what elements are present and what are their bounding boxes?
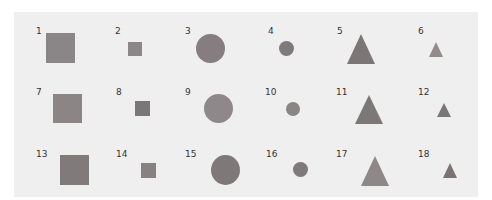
- item-label: 7: [36, 87, 42, 97]
- item-label: 5: [337, 26, 343, 36]
- square-shape-2: [128, 42, 142, 56]
- triangle-shape-6: [429, 42, 443, 57]
- item-label: 9: [185, 87, 191, 97]
- circle-shape-3: [196, 34, 225, 63]
- item-label: 1: [36, 26, 42, 36]
- item-label: 10: [265, 87, 276, 97]
- triangle-shape-12: [437, 103, 451, 117]
- circle-shape-4: [279, 41, 294, 56]
- circle-shape-15: [211, 155, 240, 185]
- item-label: 18: [418, 149, 429, 159]
- item-label: 2: [115, 26, 121, 36]
- item-label: 8: [116, 87, 122, 97]
- item-label: 16: [266, 149, 277, 159]
- square-shape-8: [135, 101, 150, 116]
- item-label: 13: [36, 149, 47, 159]
- square-shape-14: [141, 163, 156, 178]
- triangle-shape-17: [361, 156, 389, 186]
- item-label: 3: [185, 26, 191, 36]
- item-label: 14: [116, 149, 127, 159]
- square-shape-7: [53, 94, 82, 123]
- item-label: 11: [336, 87, 347, 97]
- circle-shape-9: [204, 94, 233, 123]
- circle-shape-10: [286, 102, 300, 116]
- square-shape-13: [60, 155, 89, 185]
- square-shape-1: [46, 33, 75, 63]
- item-label: 12: [418, 87, 429, 97]
- item-label: 4: [268, 26, 274, 36]
- triangle-shape-18: [443, 163, 457, 178]
- item-label: 15: [185, 149, 196, 159]
- triangle-shape-11: [355, 95, 383, 124]
- item-label: 6: [418, 26, 424, 36]
- item-label: 17: [336, 149, 347, 159]
- circle-shape-16: [293, 162, 308, 177]
- triangle-shape-5: [347, 34, 375, 64]
